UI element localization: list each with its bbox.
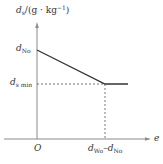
y-axis-unit-close: ) — [66, 5, 70, 15]
y-axis-arrow-icon — [35, 22, 39, 28]
origin-text: O — [34, 143, 41, 153]
x-tick-label: dWo–dNo — [88, 144, 122, 154]
y-axis-unit-exponent: −1 — [57, 4, 66, 11]
x-axis-arrow-icon — [145, 137, 151, 141]
x-axis-text: e — [154, 133, 159, 143]
x-tick-sub-2: No — [113, 147, 122, 154]
ds-curve — [37, 50, 128, 84]
y-tick-min: ds min — [10, 78, 32, 88]
y-tick-start: dNo — [16, 44, 31, 54]
y-tick-start-sub: No — [22, 47, 31, 54]
x-tick-sub-1: Wo — [94, 147, 103, 154]
x-axis-label: e — [154, 134, 159, 143]
origin-label: O — [34, 144, 41, 153]
y-tick-min-sub: s min — [16, 81, 32, 88]
x-tick-minus: –d — [103, 143, 113, 153]
y-axis-label: ds/(g · kg−1) — [16, 5, 69, 16]
y-axis-unit: /(g · kg — [25, 5, 57, 15]
